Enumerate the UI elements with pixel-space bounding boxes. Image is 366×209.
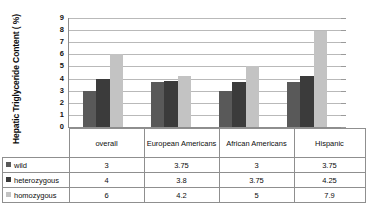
bar-homozygous-overall bbox=[110, 54, 124, 127]
y-tick-mark-9 bbox=[341, 18, 346, 19]
bar-wild-overall bbox=[83, 91, 97, 127]
table-cell: 3 bbox=[219, 158, 294, 173]
y-tick-mark-6 bbox=[341, 54, 346, 55]
y-tick-label-5: 5 bbox=[50, 62, 64, 70]
table-column-header: European Americans bbox=[144, 129, 219, 158]
legend-item-wild: wild bbox=[3, 158, 70, 173]
bar-heterozygous-overall bbox=[96, 79, 110, 127]
bar-wild-hispanic bbox=[287, 82, 301, 127]
data-table: overallEuropean AmericansAfrican America… bbox=[2, 128, 366, 203]
table-row: wild33.7533.75 bbox=[3, 158, 366, 173]
bar-group bbox=[137, 18, 205, 127]
y-tick-mark-4 bbox=[341, 79, 346, 80]
table-column-header: overall bbox=[69, 129, 144, 158]
y-tick-mark-8 bbox=[341, 30, 346, 31]
table-cell: 3.75 bbox=[294, 158, 365, 173]
table-cell: 3 bbox=[69, 158, 144, 173]
bar-homozygous-european-americans bbox=[178, 76, 192, 127]
y-tick-label-2: 2 bbox=[50, 99, 64, 107]
table-cell: 4.2 bbox=[144, 188, 219, 203]
bar-group bbox=[273, 18, 341, 127]
bar-wild-european-americans bbox=[151, 82, 165, 127]
y-tick-label-3: 3 bbox=[50, 87, 64, 95]
y-tick-label-6: 6 bbox=[50, 50, 64, 58]
table-header-row: overallEuropean AmericansAfrican America… bbox=[3, 129, 366, 158]
table-cell: 4 bbox=[69, 173, 144, 188]
table-row: heterozygous43.83.754.25 bbox=[3, 173, 366, 188]
table-cell: 6 bbox=[69, 188, 144, 203]
table-cell: 3.75 bbox=[219, 173, 294, 188]
table-corner-cell bbox=[3, 129, 70, 158]
bar-heterozygous-european-americans bbox=[164, 81, 178, 127]
bar-heterozygous-african-americans bbox=[232, 82, 246, 127]
bar-group bbox=[69, 18, 137, 127]
y-tick-label-7: 7 bbox=[50, 38, 64, 46]
homozygous-swatch-icon bbox=[6, 192, 11, 197]
table-column-header: Hispanic bbox=[294, 129, 365, 158]
bar-wild-african-americans bbox=[219, 91, 233, 127]
heterozygous-swatch-icon bbox=[6, 177, 11, 182]
wild-swatch-icon bbox=[6, 162, 11, 167]
y-tick-label-1: 1 bbox=[50, 111, 64, 119]
y-tick-mark-2 bbox=[341, 103, 346, 104]
bar-homozygous-hispanic bbox=[314, 31, 328, 127]
y-tick-label-9: 9 bbox=[50, 14, 64, 22]
y-tick-mark-7 bbox=[341, 42, 346, 43]
table-column-header: African Americans bbox=[219, 129, 294, 158]
legend-item-label: homozygous bbox=[14, 191, 57, 200]
y-tick-mark-1 bbox=[341, 115, 346, 116]
legend-item-label: heterozygous bbox=[14, 176, 59, 185]
y-tick-mark-5 bbox=[341, 66, 346, 67]
legend-item-label: wild bbox=[14, 161, 27, 170]
table-row: homozygous64.257.9 bbox=[3, 188, 366, 203]
y-tick-mark-3 bbox=[341, 91, 346, 92]
y-tick-label-4: 4 bbox=[50, 75, 64, 83]
legend-item-homozygous: homozygous bbox=[3, 188, 70, 203]
bar-heterozygous-hispanic bbox=[300, 76, 314, 127]
legend-item-heterozygous: heterozygous bbox=[3, 173, 70, 188]
table-cell: 4.25 bbox=[294, 173, 365, 188]
table-cell: 5 bbox=[219, 188, 294, 203]
table-cell: 3.75 bbox=[144, 158, 219, 173]
table-cell: 7.9 bbox=[294, 188, 365, 203]
y-tick-label-8: 8 bbox=[50, 26, 64, 34]
table-body: wild33.7533.75heterozygous43.83.754.25ho… bbox=[3, 158, 366, 203]
table-cell: 3.8 bbox=[144, 173, 219, 188]
plot-area bbox=[68, 18, 341, 128]
bar-group bbox=[205, 18, 273, 127]
bar-homozygous-african-americans bbox=[246, 66, 260, 127]
